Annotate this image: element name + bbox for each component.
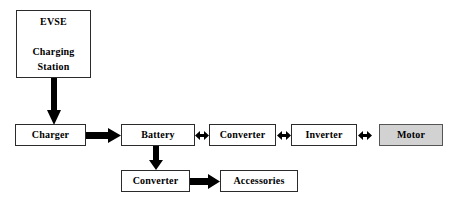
node-inverter[interactable]: Inverter <box>291 124 357 146</box>
node-converter-low-voltage-label: Converter <box>133 175 179 187</box>
node-motor[interactable]: Motor <box>379 124 443 146</box>
edge-evse-to-charger <box>44 76 64 126</box>
node-accessories-label: Accessories <box>233 175 284 187</box>
node-evse-charging-station-label: EVSE Charging Station <box>32 14 74 74</box>
node-battery-label: Battery <box>141 129 175 141</box>
node-inverter-label: Inverter <box>305 129 342 141</box>
edge-inverter-to-motor <box>358 130 372 141</box>
edge-battery-to-converter-hv <box>195 130 209 141</box>
node-battery[interactable]: Battery <box>121 124 195 146</box>
node-converter-high-voltage-label: Converter <box>220 129 266 141</box>
node-accessories[interactable]: Accessories <box>220 170 298 192</box>
node-charger-label: Charger <box>32 129 70 141</box>
edge-battery-to-converter-lv <box>147 146 165 171</box>
node-converter-low-voltage[interactable]: Converter <box>121 170 190 192</box>
powertrain-block-diagram: EVSE Charging Station Charger Battery Co… <box>0 0 453 211</box>
edge-charger-to-battery <box>86 128 122 143</box>
node-charger[interactable]: Charger <box>15 124 86 146</box>
edge-converter-lv-to-accessories <box>190 174 221 189</box>
node-motor-label: Motor <box>397 129 425 141</box>
node-evse-charging-station[interactable]: EVSE Charging Station <box>16 10 91 78</box>
edge-converter-hv-to-inverter <box>277 130 291 141</box>
node-converter-high-voltage[interactable]: Converter <box>209 124 276 146</box>
